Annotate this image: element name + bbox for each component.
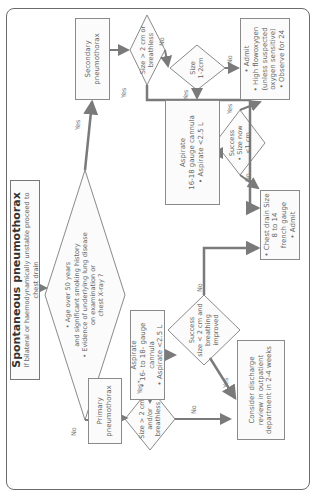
discharge-box: Consider discharge review in outpatient … (237, 340, 285, 440)
edge-label-main-no: No (70, 427, 78, 436)
size-1-2cm-decision: Size 1-2cm (180, 48, 214, 88)
edge-label-size12-no: No (226, 55, 234, 64)
edge-label-sec-success-yes: Yes (226, 104, 234, 115)
edge-label-main-yes: Yes (74, 120, 82, 131)
admit-high-flow-oxygen-box: • Admit • High flowoxygen (unless suspec… (240, 18, 290, 100)
edge-label-size12-yes: Yes (182, 90, 190, 101)
title-subtitle: If bilateral or haemodynamically unstabl… (23, 183, 39, 377)
edge-label-sec-success-no: No (244, 173, 252, 182)
primary-size-decision: Size > 2 cm and/or breathless (136, 392, 164, 446)
page-title: Spontaneous pneumothorax (10, 192, 23, 368)
main-decision: • Age over 50 years and significant smok… (50, 212, 120, 378)
primary-pneumothorax-box: Primary pneumothorax (88, 378, 122, 444)
secondary-pneumothorax-box: Secondary pneumothorax (75, 18, 110, 100)
secondary-aspirate-box: Aspirate 16-18 gauge cannula • Aspirate … (165, 100, 220, 205)
primary-success-decision: Success size < 2 cm and breathing improv… (182, 300, 226, 360)
secondary-size-decision: Size > 2 cm or breathless (133, 22, 161, 78)
edge-label-pri-size-no: No (190, 405, 198, 414)
secondary-success-decision: Success • Size now <1 cm (222, 118, 258, 168)
edge-label-pri-success-yes: Yes (222, 378, 230, 389)
edge-label-sec-size-no: No (158, 37, 166, 46)
edge-label-pri-success-no: No (196, 283, 204, 292)
chest-drain-box: • Chest drain Size 8 to 14 french gauge … (260, 190, 300, 260)
title-box: Spontaneous pneumothorax If bilateral or… (10, 180, 40, 380)
edge-label-pri-size-yes: Yes* (136, 380, 144, 394)
flowchart-canvas: Spontaneous pneumothorax If bilateral or… (0, 0, 316, 498)
edge-label-sec-size-yes: Yes (120, 88, 128, 99)
